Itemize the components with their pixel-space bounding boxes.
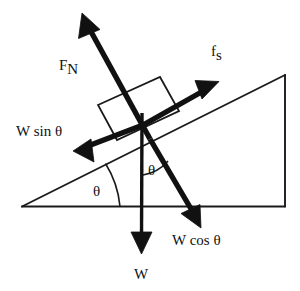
weight-perpendicular-label: W cos θ bbox=[172, 232, 221, 248]
static-friction-label-sub: s bbox=[216, 47, 222, 63]
weight-parallel-shaft bbox=[88, 125, 143, 146]
static-friction-label: fs bbox=[211, 43, 222, 63]
static-friction-vector bbox=[143, 81, 219, 126]
weight-parallel-vector bbox=[73, 125, 143, 162]
physics-diagram-canvas: FN fs W sin θ W cos θ W θ θ bbox=[0, 0, 300, 291]
weight-perpendicular-shaft bbox=[150, 139, 194, 214]
free-body-diagram: FN fs W sin θ W cos θ W θ θ bbox=[0, 0, 300, 291]
normal-force-label-base: F bbox=[59, 57, 67, 73]
weight-parallel-label: W sin θ bbox=[16, 123, 62, 139]
angle-arc-base bbox=[106, 164, 121, 207]
normal-force-vector bbox=[79, 13, 151, 139]
angle-base-label: θ bbox=[93, 183, 100, 199]
normal-force-label-sub: N bbox=[67, 61, 78, 77]
weight-vector-arrowhead bbox=[131, 232, 152, 254]
normal-force-label: FN bbox=[59, 57, 78, 77]
normal-force-shaft bbox=[89, 28, 150, 139]
weight-label: W bbox=[134, 266, 149, 282]
weight-parallel-arrowhead bbox=[73, 139, 94, 162]
angle-markers bbox=[106, 161, 169, 207]
normal-force-arrowhead bbox=[79, 13, 101, 39]
angle-vertical-label: θ bbox=[148, 162, 155, 178]
weight-vector-shaft bbox=[142, 113, 143, 240]
weight-perpendicular-vector bbox=[150, 139, 201, 228]
